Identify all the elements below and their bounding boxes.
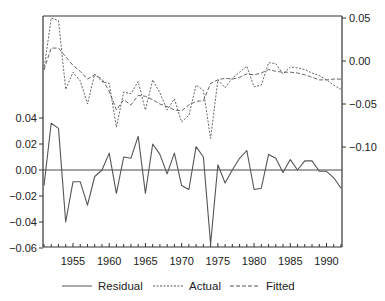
left-tick-label: −0.06 <box>9 242 37 254</box>
legend-item-actual: Actual <box>153 280 221 292</box>
series-line-residual <box>44 123 341 244</box>
residual-actual-fitted-chart: 0.040.020.00−0.02−0.04−0.06 0.050.00−0.0… <box>0 0 385 301</box>
x-tick-label: 1955 <box>61 255 85 267</box>
left-tick-label: −0.04 <box>9 216 37 228</box>
legend-label-actual: Actual <box>189 280 221 292</box>
x-tick-label: 1970 <box>169 255 193 267</box>
x-tick-label: 1985 <box>278 255 302 267</box>
x-tick-label: 1990 <box>314 255 338 267</box>
legend-item-fitted: Fitted <box>230 280 295 292</box>
plot-frame <box>43 16 342 247</box>
left-y-axis: 0.040.020.00−0.02−0.04−0.06 <box>9 112 43 254</box>
left-tick-label: 0.02 <box>16 138 37 150</box>
series-layer <box>43 18 342 244</box>
left-tick-label: −0.02 <box>9 190 37 202</box>
x-tick-label: 1980 <box>242 255 266 267</box>
right-tick-label: −0.10 <box>349 141 377 153</box>
x-tick-label: 1960 <box>97 255 121 267</box>
x-tick-label: 1965 <box>133 255 157 267</box>
legend-label-residual: Residual <box>98 280 143 292</box>
legend-label-fitted: Fitted <box>266 280 295 292</box>
x-tick-label: 1975 <box>206 255 230 267</box>
left-tick-label: 0.04 <box>16 112 37 124</box>
legend: Residual Actual Fitted <box>62 280 295 292</box>
left-tick-label: 0.00 <box>16 164 37 176</box>
legend-item-residual: Residual <box>62 280 143 292</box>
right-tick-label: 0.05 <box>349 12 370 24</box>
right-tick-label: −0.05 <box>349 98 377 110</box>
right-tick-label: 0.00 <box>349 55 370 67</box>
right-y-axis: 0.050.00−0.05−0.10 <box>342 12 377 153</box>
